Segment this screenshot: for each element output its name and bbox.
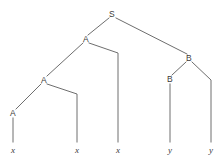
tree-edge-B1-to-B2	[172, 62, 186, 75]
tree-leaf-x1: x	[11, 146, 15, 155]
tree-edge-S-to-B1	[116, 18, 187, 54]
tree-edges-layer	[0, 0, 223, 157]
tree-leaf-y2: y	[209, 146, 213, 155]
tree-node-a2: A	[41, 76, 47, 85]
tree-node-a1: A	[83, 35, 89, 44]
tree-node-s: S	[109, 10, 115, 19]
tree-edge-A1-to-A2	[47, 43, 83, 76]
tree-edge-A1-to-x3	[89, 43, 118, 142]
tree-node-a3: A	[10, 109, 16, 118]
tree-node-b2: B	[167, 75, 173, 84]
tree-leaf-x3: x	[116, 146, 120, 155]
tree-edge-S-to-A1	[88, 18, 109, 35]
syntax-tree-figure: SABABA xxxyy	[0, 0, 223, 157]
tree-leaf-y1: y	[168, 146, 172, 155]
tree-leaf-x2: x	[75, 146, 79, 155]
tree-node-b1: B	[186, 54, 192, 63]
tree-edge-B1-to-y2	[192, 62, 211, 142]
tree-edge-A2-to-x2	[47, 84, 77, 142]
tree-edge-A2-to-A3	[16, 84, 41, 109]
